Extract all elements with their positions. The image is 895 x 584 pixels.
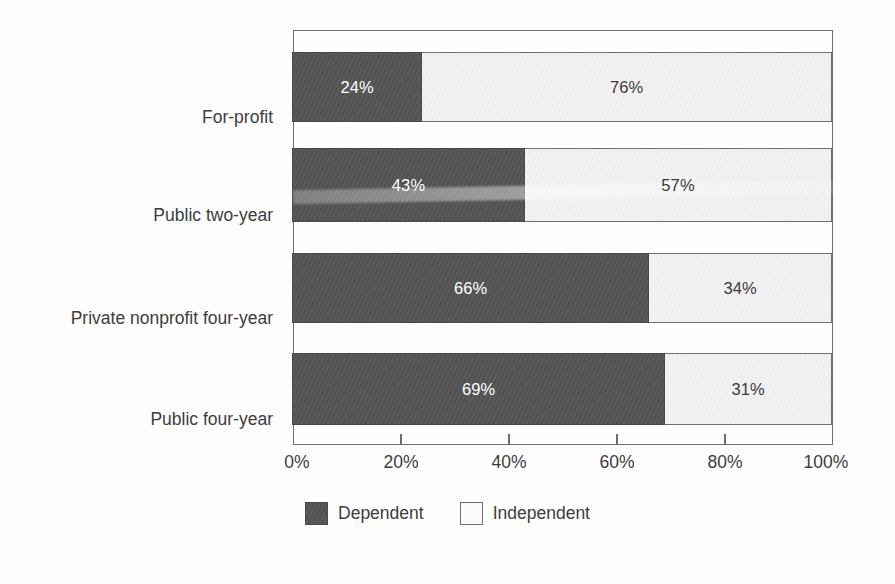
legend-item-independent[interactable]: Independent xyxy=(460,502,590,525)
stacked-bar-chart: For-profit Public two-year Private nonpr… xyxy=(0,0,895,584)
x-axis-tick-label: 100% xyxy=(804,452,849,473)
bar-segment-dependent[interactable]: 24% xyxy=(292,52,422,122)
bar-segment-independent[interactable]: 76% xyxy=(422,52,832,122)
category-label-for-profit: For-profit xyxy=(202,107,273,128)
bar-segment-dependent[interactable]: 69% xyxy=(292,353,665,425)
chart-legend: Dependent Independent xyxy=(0,502,895,525)
bar-segment-value: 69% xyxy=(462,380,495,399)
bar-segment-independent[interactable]: 34% xyxy=(649,253,833,323)
bar-row: 24% 76% xyxy=(292,52,832,122)
category-label-public-two-year: Public two-year xyxy=(153,205,273,226)
bar-row: 66% 34% xyxy=(292,253,832,323)
scanned-page: For-profit Public two-year Private nonpr… xyxy=(0,0,895,584)
legend-item-dependent[interactable]: Dependent xyxy=(305,502,424,525)
x-axis-tick-label: 80% xyxy=(707,452,742,473)
category-axis-labels: For-profit Public two-year Private nonpr… xyxy=(0,30,283,445)
category-label-public-four-year: Public four-year xyxy=(150,409,273,430)
x-axis-tick-label: 0% xyxy=(284,452,309,473)
bar-segment-dependent[interactable]: 66% xyxy=(292,253,648,323)
legend-swatch-independent-icon xyxy=(460,502,483,525)
x-axis-tick-label: 40% xyxy=(491,452,526,473)
category-label-private-nonprofit-four-year: Private nonprofit four-year xyxy=(71,308,273,329)
bar-segment-value: 57% xyxy=(661,176,694,195)
legend-swatch-dependent-icon xyxy=(305,502,328,525)
bar-segment-dependent[interactable]: 43% xyxy=(292,148,524,222)
bar-segment-value: 43% xyxy=(392,176,425,195)
bar-segment-independent[interactable]: 31% xyxy=(665,353,832,425)
bar-row: 69% 31% xyxy=(292,353,832,425)
plot-area: 24% 76% 43% 57% 66% xyxy=(293,30,833,445)
legend-label: Independent xyxy=(493,503,590,524)
bar-segment-value: 24% xyxy=(341,78,374,97)
x-axis-tick-label: 20% xyxy=(383,452,418,473)
bar-segment-value: 31% xyxy=(732,380,765,399)
bar-row: 43% 57% xyxy=(292,148,832,222)
bar-segment-value: 66% xyxy=(454,279,487,298)
bar-segment-value: 76% xyxy=(610,78,643,97)
x-axis-tick-labels: 0% 20% 40% 60% 80% 100% xyxy=(293,452,833,480)
legend-label: Dependent xyxy=(338,503,424,524)
x-axis-tick-label: 60% xyxy=(599,452,634,473)
bar-segment-value: 34% xyxy=(723,279,756,298)
bar-segment-independent[interactable]: 57% xyxy=(525,148,833,222)
